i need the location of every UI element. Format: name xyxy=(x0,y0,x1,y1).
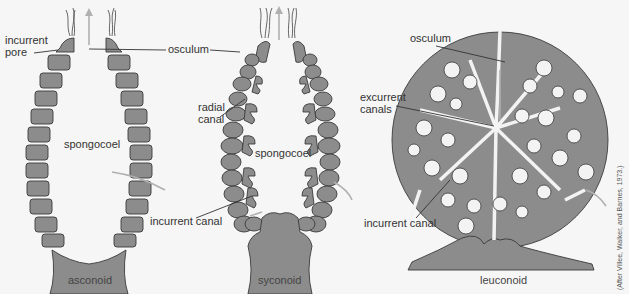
label-spongocoel: spongocoel xyxy=(64,138,120,150)
label-incurrent-canal: incurrent canal xyxy=(150,215,222,227)
label-radial-canal-line1: radial xyxy=(198,101,225,113)
base xyxy=(50,250,128,294)
caption-leuconoid: leuconoid xyxy=(480,274,527,286)
label-incurrent-pore-line1: incurrent xyxy=(5,34,48,46)
body-wall-right xyxy=(293,41,340,232)
water-flow-arrow-icon xyxy=(85,8,93,45)
label-excurrent-canals-line2: canals xyxy=(360,103,392,115)
base xyxy=(408,236,594,270)
label-osculum: osculum xyxy=(168,43,209,55)
caption-syconoid: syconoid xyxy=(258,274,301,286)
figure-credit: (After Villee, Walker, and Barnes, 1973.… xyxy=(616,165,624,290)
body-wall-left xyxy=(221,41,270,232)
asconoid-panel: incurrent pore osculum spongocoel ascono… xyxy=(5,8,240,294)
label-osculum: osculum xyxy=(410,32,451,44)
sponge-body-types-diagram: incurrent pore osculum spongocoel ascono… xyxy=(0,0,629,294)
caption-asconoid: asconoid xyxy=(68,274,112,286)
label-excurrent-canals-line1: excurrent xyxy=(360,91,406,103)
label-incurrent-pore-line2: pore xyxy=(5,46,27,58)
leuconoid-panel: osculum excurrent canals incurrent canal… xyxy=(360,30,608,286)
water-flow-arrow-icon xyxy=(275,6,283,40)
label-spongocoel: spongocoel xyxy=(255,147,311,159)
label-incurrent-canal: incurrent canal xyxy=(364,217,436,229)
label-radial-canal-line2: canal xyxy=(198,113,224,125)
